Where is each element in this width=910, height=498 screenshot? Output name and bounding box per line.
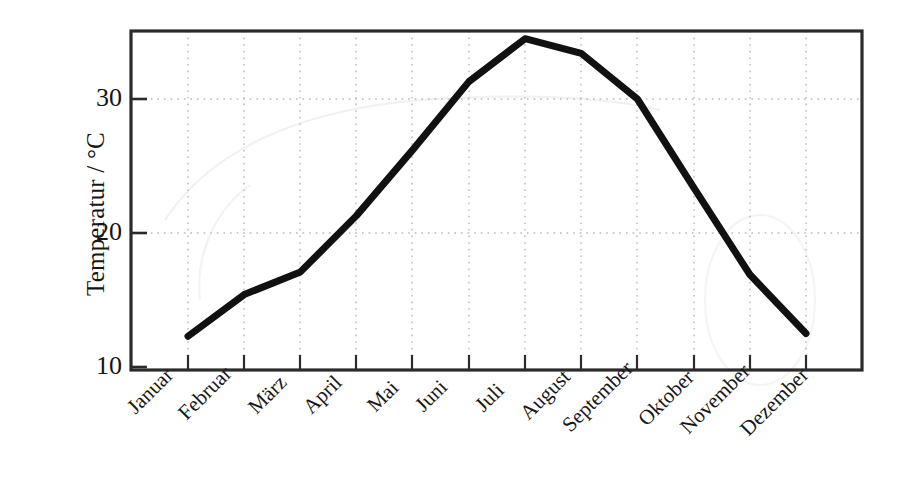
x-tick-label-januar: Januar	[124, 364, 178, 418]
x-tick-label-september: September	[559, 358, 637, 436]
x-tick-label-juli: Juli	[472, 380, 508, 416]
x-tick-label-april: April	[300, 372, 346, 418]
x-tick-label-februar: Februar	[175, 363, 236, 424]
x-tick-label-maerz: März	[245, 372, 291, 418]
x-tick-label-mai: Mai	[364, 377, 403, 416]
x-axis-tick-labels: Januar Februar März April Mai Juni Juli …	[0, 0, 910, 498]
temperature-line-chart: Temperatur / °C 30 20 10	[0, 0, 910, 498]
x-tick-label-juni: Juni	[412, 376, 452, 416]
